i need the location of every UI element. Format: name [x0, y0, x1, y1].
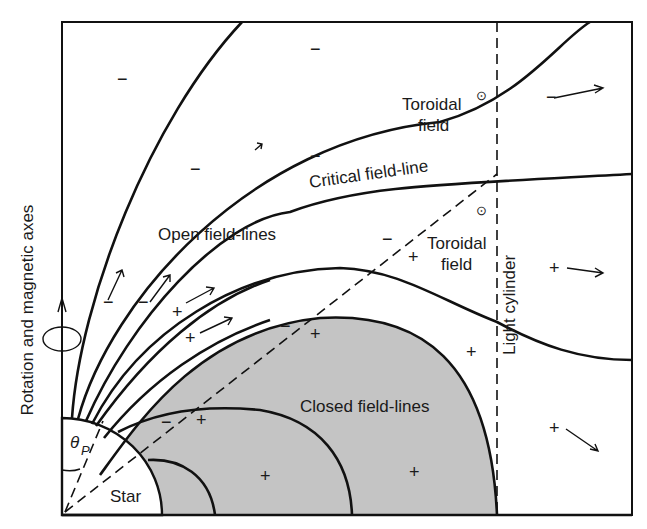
theta-sub-label: P	[81, 443, 90, 458]
charge-sign: +	[196, 410, 207, 430]
light-cylinder-label: Light cylinder	[500, 255, 519, 356]
charge-sign: +	[310, 324, 321, 344]
charge-sign: +	[549, 418, 560, 438]
charge-sign: +	[172, 302, 183, 322]
closed-field-lines-label: Closed field-lines	[300, 397, 429, 416]
toroidal-upper-label: Toroidal	[402, 95, 462, 114]
charge-sign: −	[161, 412, 172, 432]
charge-sign: +	[408, 247, 419, 267]
arrow-icon	[186, 287, 214, 303]
open-field-lines-label: Open field-lines	[158, 225, 276, 244]
charge-sign: −	[117, 69, 128, 89]
arrow-icon	[200, 317, 232, 333]
charge-sign: −	[382, 229, 393, 249]
toroidal-upper-label-2: field	[418, 116, 449, 135]
charge-sign: −	[310, 146, 321, 166]
toroidal-dot-icon: ⊙	[476, 203, 487, 218]
charge-sign: +	[185, 328, 196, 348]
arrow-icon	[567, 268, 603, 277]
charge-sign: +	[260, 466, 271, 486]
star-label: Star	[110, 487, 142, 506]
toroidal-lower-label-2: field	[441, 255, 472, 274]
charge-sign: −	[138, 292, 149, 312]
charge-sign: +	[409, 462, 420, 482]
toroidal-lower-label: Toroidal	[427, 234, 487, 253]
charge-sign: −	[310, 39, 321, 59]
axis-label: Rotation and magnetic axes	[18, 205, 37, 416]
arrow-icon	[554, 85, 603, 98]
charge-sign: −	[546, 87, 557, 107]
arrow-icon	[255, 143, 262, 150]
charge-sign: −	[103, 292, 114, 312]
charge-sign: −	[190, 159, 201, 179]
arrow-icon	[566, 429, 598, 451]
charge-sign: +	[466, 342, 477, 362]
arrow-icon	[150, 275, 170, 302]
toroidal-dot-icon: ⊙	[476, 88, 487, 103]
charge-sign: +	[549, 258, 560, 278]
charge-sign: −	[280, 316, 291, 336]
magnetosphere-diagram: Rotation and magnetic axes Light cylinde…	[0, 0, 647, 529]
theta-label: θ	[70, 433, 80, 452]
